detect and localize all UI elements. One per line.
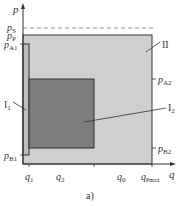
label-pB1: pB1 [3,150,18,163]
region-I2 [29,79,94,148]
label-region-I2: I2 [168,102,175,115]
label-q1: q1 [25,171,34,184]
y-axis-arrow-icon [21,3,25,9]
y-axis-label: p [12,3,19,15]
figure-caption: a) [86,190,94,202]
label-pB2: pB2 [157,143,172,156]
label-pA2: pA2 [157,74,172,87]
x-axis-label: q [169,168,175,180]
label-qPmax: qPmax [141,171,160,183]
x-axis-arrow-icon [170,162,176,166]
label-q2: q2 [56,171,65,184]
region-I1 [23,44,29,155]
pq-operating-region-diagram: p pS pP pA1 pB1 pA2 pB2 q1 q2 q0 qPmax q [0,0,181,206]
label-q0: q0 [117,171,126,184]
label-region-II: II [162,39,169,50]
label-region-I1: I1 [4,99,11,112]
